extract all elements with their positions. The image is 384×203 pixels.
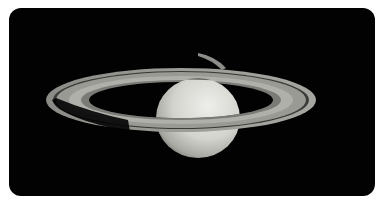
- planet-pole: [198, 53, 226, 70]
- saturn-photo: [9, 8, 375, 196]
- saturn-illustration: [9, 8, 375, 196]
